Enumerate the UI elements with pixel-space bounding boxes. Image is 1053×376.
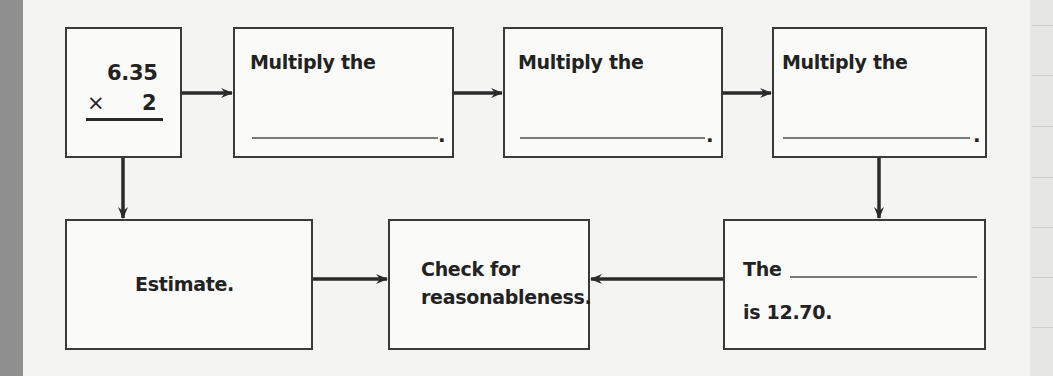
connector-arrows xyxy=(0,0,1053,376)
